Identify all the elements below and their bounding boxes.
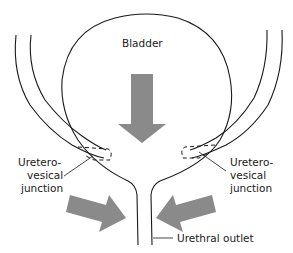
left-junction-leader [64, 156, 93, 176]
right-ureter-inner [190, 30, 267, 150]
left-ureter-inner [30, 35, 106, 150]
right-junction-label-line2: vesical [230, 169, 266, 181]
diagram-svg: Bladder Uretero- vesical junction Ureter… [0, 0, 293, 253]
right-junction-label-line3: junction [229, 182, 272, 194]
right-junction-label-line1: Uretero- [230, 156, 274, 168]
right-arrow-icon [156, 195, 216, 232]
central-arrow-icon [118, 74, 166, 143]
left-arrow-icon [66, 195, 126, 232]
left-junction-label-line1: Uretero- [18, 156, 62, 168]
left-junction-label-line2: vesical [27, 169, 63, 181]
left-ureter-outer [15, 35, 104, 158]
right-ureter-outer [192, 30, 282, 158]
bladder-label: Bladder [122, 37, 163, 49]
left-junction-dashed-box [78, 147, 111, 160]
left-junction-label-line3: junction [20, 182, 63, 194]
urethral-outlet-label: Urethral outlet [177, 232, 254, 244]
right-junction-leader [199, 152, 226, 171]
bladder-diagram: Bladder Uretero- vesical junction Ureter… [0, 0, 293, 253]
